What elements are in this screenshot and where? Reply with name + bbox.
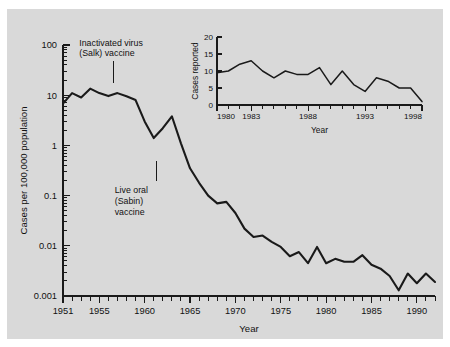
sabin-annotation-line3: vaccine bbox=[115, 207, 145, 217]
inset-ytick-label: 10 bbox=[204, 67, 214, 76]
inset-xtick-label: 1993 bbox=[356, 112, 375, 121]
figure-page: 1001010.10.010.0011951195519601965197019… bbox=[0, 0, 450, 347]
main-xtick-label: 1985 bbox=[361, 306, 382, 316]
figure-panel: 1001010.10.010.0011951195519601965197019… bbox=[7, 9, 443, 339]
main-ytick-label: 100 bbox=[41, 40, 57, 50]
polio-incidence-chart: 1001010.10.010.0011951195519601965197019… bbox=[7, 9, 443, 339]
main-xtick-label: 1955 bbox=[89, 306, 110, 316]
main-xtick-label: 1975 bbox=[270, 306, 291, 316]
inset-xtick-label: 1983 bbox=[242, 112, 261, 121]
salk-annotation-line2: (Salk) vaccine bbox=[79, 48, 134, 58]
main-xaxis-title: Year bbox=[239, 323, 259, 334]
main-axes bbox=[63, 45, 435, 296]
inset-xtick-label: 1998 bbox=[404, 112, 423, 121]
main-xtick-label: 1965 bbox=[180, 306, 201, 316]
main-xtick-label: 1960 bbox=[134, 306, 155, 316]
inset-series-line bbox=[217, 61, 422, 102]
main-ytick-label: 0.001 bbox=[34, 291, 57, 301]
main-xtick-label: 1951 bbox=[53, 306, 74, 316]
inset-axes bbox=[217, 37, 422, 105]
salk-annotation-line1: Inactivated virus bbox=[79, 38, 143, 48]
inset-xtick-label: 1980 bbox=[217, 112, 236, 121]
main-yaxis-title: Cases per 100,000 population bbox=[18, 106, 29, 234]
inset-ytick-label: 5 bbox=[208, 84, 213, 93]
main-ytick-label: 0.01 bbox=[39, 241, 57, 251]
inset-ytick-label: 15 bbox=[204, 50, 214, 59]
main-ytick-label: 0.1 bbox=[44, 191, 57, 201]
main-ytick-label: 1 bbox=[52, 141, 57, 151]
main-xtick-label: 1980 bbox=[316, 306, 337, 316]
inset-xaxis-title: Year bbox=[311, 125, 328, 135]
inset-xtick-label: 1988 bbox=[299, 112, 318, 121]
main-xtick-label: 1970 bbox=[225, 306, 246, 316]
inset-ytick-label: 0 bbox=[208, 101, 213, 110]
main-xtick-label: 1990 bbox=[407, 306, 428, 316]
inset-ytick-label: 20 bbox=[204, 33, 214, 42]
main-ytick-label: 10 bbox=[47, 91, 57, 101]
sabin-annotation-line2: (Sabin) bbox=[115, 196, 143, 206]
sabin-annotation-line1: Live oral bbox=[115, 185, 148, 195]
inset-yaxis-title: Cases reported bbox=[190, 42, 200, 100]
